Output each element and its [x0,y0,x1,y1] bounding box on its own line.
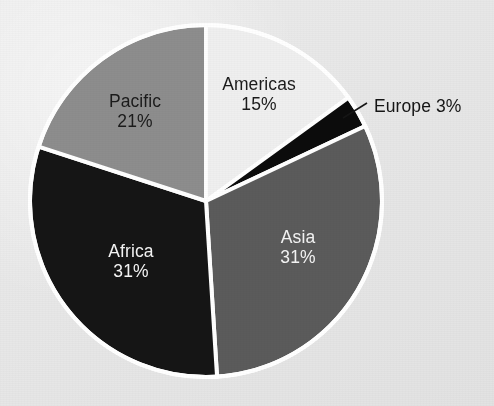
pie-slice-label-africa-name: Africa [108,242,153,262]
pie-slice-label-pacific-name: Pacific [109,92,161,112]
pie-slice-label-pacific-value: 21% [109,112,161,132]
pie-slice-label-americas-name: Americas [222,75,296,95]
pie-slices-group [30,25,382,377]
pie-chart-figure: Americas 15% Asia 31% Africa 31% Pacific… [0,0,494,406]
pie-slice-label-asia: Asia 31% [280,228,315,267]
pie-slice-label-africa: Africa 31% [108,242,153,281]
pie-slice-label-asia-value: 31% [280,248,315,268]
pie-slice-label-americas: Americas 15% [222,75,296,114]
pie-chart-canvas [0,0,494,406]
pie-slice-label-asia-name: Asia [280,228,315,248]
pie-slice-label-americas-value: 15% [222,95,296,115]
pie-slice-label-africa-value: 31% [108,262,153,282]
pie-slice-label-pacific: Pacific 21% [109,92,161,131]
pie-slice-label-europe: Europe 3% [374,96,462,117]
